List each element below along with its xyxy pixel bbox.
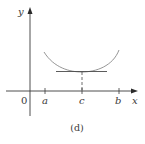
y-axis-arrow-icon [28, 7, 33, 14]
curve [44, 50, 119, 72]
figure-d: y 0 a c b x (d) [0, 0, 145, 144]
tick-label-c: c [79, 95, 85, 106]
x-axis-label: x [132, 95, 138, 106]
tick-label-a: a [42, 95, 48, 106]
tick-label-b: b [115, 95, 121, 106]
figure-caption: (d) [70, 122, 84, 133]
x-axis-arrow-icon [131, 89, 138, 94]
y-axis-label: y [17, 6, 24, 17]
origin-label: 0 [21, 95, 27, 106]
